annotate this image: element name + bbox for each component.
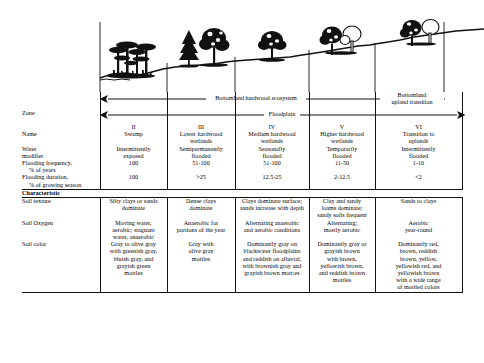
zone-numeral-v: V bbox=[309, 124, 375, 131]
water-modifier-vi: Intermittentlyflooded bbox=[375, 146, 462, 160]
soil-texture-iv: Clays dominate surface;sands increase wi… bbox=[235, 198, 309, 220]
soil-color-v: Dominantly gray orgrayish brownwith brow… bbox=[309, 241, 375, 292]
water-modifier-line2: modifier bbox=[22, 153, 43, 159]
zone-numeral-iii: III bbox=[167, 124, 235, 131]
table-row-water-modifier: Water modifier Intermittentlyexposed Sem… bbox=[22, 146, 462, 160]
soil-texture-vi: Sands to clays bbox=[375, 198, 462, 220]
row-label-soil-texture: Soil texture bbox=[22, 198, 100, 220]
name-iv: Medium hardwoodwetlands bbox=[235, 131, 309, 145]
zone-numeral-vi: VI bbox=[375, 124, 462, 131]
table-row-soil-oxygen: Soil Oxygen Moving water,aerobic; stagna… bbox=[22, 220, 462, 242]
zone-characteristics-table: Zone II III IV V VI Name Swamp Lower h bbox=[22, 92, 463, 295]
zone-spacer-v bbox=[309, 92, 375, 124]
soil-texture-iii: Dense claysdominate bbox=[167, 198, 235, 220]
flooding-duration-iii: >25 bbox=[167, 174, 235, 189]
row-label-zone-numerals-blank bbox=[22, 124, 100, 131]
soil-color-ii: Gray to olive graywith greenish gray,blu… bbox=[100, 241, 167, 292]
water-modifier-v: Temporarilyflooded bbox=[309, 146, 375, 160]
row-label-flooding-duration: Flooding duration, % of growing season bbox=[22, 174, 100, 189]
terrain-ground-line bbox=[100, 29, 484, 78]
table-row-flooding-duration: Flooding duration, % of growing season 1… bbox=[22, 174, 462, 189]
zone-spacer-ii bbox=[100, 92, 167, 124]
flooding-frequency-iv: 51-100 bbox=[235, 160, 309, 174]
table-row-soil-color: Soil color Gray to olive graywith greeni… bbox=[22, 241, 462, 292]
ground-shadow-zone-vi bbox=[406, 42, 436, 45]
soil-oxygen-iv: Alternating anaerobicand aerobic conditi… bbox=[235, 220, 309, 242]
zone-spacer-iv bbox=[235, 92, 309, 124]
row-label-zone: Zone bbox=[22, 92, 100, 124]
ground-shadow-zone-v bbox=[325, 51, 357, 54]
zone-spacer-vi bbox=[375, 92, 462, 124]
tree-zone-vi-outline bbox=[422, 20, 439, 44]
row-label-name: Name bbox=[22, 131, 100, 145]
row-label-soil-color: Soil color bbox=[22, 241, 100, 292]
soil-oxygen-ii: Moving water,aerobic; stagnantwater, ana… bbox=[100, 220, 167, 242]
flooding-frequency-vi: 1-10 bbox=[375, 160, 462, 174]
table-bottom-rule bbox=[22, 292, 462, 295]
flooding-frequency-line2: % of years bbox=[22, 167, 100, 174]
water-modifier-iii: Semipermanentlyflooded bbox=[167, 146, 235, 160]
flooding-frequency-ii: 100 bbox=[100, 160, 167, 174]
table-row-name: Name Swamp Lower hardwoodwetlands Medium… bbox=[22, 131, 462, 145]
landscape-profile-illustration bbox=[0, 0, 484, 92]
soil-color-iv: Dominantly gray onblackwater floodplains… bbox=[235, 241, 309, 292]
figure-root: Bottomland hardwood ecosystem Floodplain… bbox=[0, 0, 484, 363]
characteristic-header: Characteristic bbox=[22, 189, 462, 197]
table-row-zone-numerals: II III IV V VI bbox=[22, 124, 462, 131]
soil-texture-ii: Silty clays or sandsdominate bbox=[100, 198, 167, 220]
zone-spacer-iii bbox=[167, 92, 235, 124]
flooding-frequency-line1: Flooding frequency, bbox=[22, 160, 72, 166]
water-modifier-iv: Seasonallyflooded bbox=[235, 146, 309, 160]
flooding-duration-line1: Flooding duration, bbox=[22, 174, 68, 180]
soil-color-vi: Dominantly red,brown, reddishbrown, yell… bbox=[375, 241, 462, 292]
name-vi: Transition touplands bbox=[375, 131, 462, 145]
table-bottom-rule-row bbox=[22, 292, 462, 295]
name-iii: Lower hardwoodwetlands bbox=[167, 131, 235, 145]
water-modifier-line1: Water bbox=[22, 146, 37, 152]
flooding-frequency-v: 11-50 bbox=[309, 160, 375, 174]
tree-cluster-zone-iii bbox=[179, 28, 230, 68]
name-ii: Swamp bbox=[100, 131, 167, 145]
flooding-duration-ii: 100 bbox=[100, 174, 167, 189]
zone-numeral-iv: IV bbox=[235, 124, 309, 131]
row-label-soil-oxygen: Soil Oxygen bbox=[22, 220, 100, 242]
table-row-characteristic-header: Characteristic bbox=[22, 189, 462, 197]
swamp-water-base bbox=[100, 79, 130, 80]
table-row-flooding-frequency: Flooding frequency, % of years 100 51-10… bbox=[22, 160, 462, 174]
name-v: Higher hardwoodwetlands bbox=[309, 131, 375, 145]
flooding-frequency-iii: 51-100 bbox=[167, 160, 235, 174]
soil-oxygen-iii: Anaerobic forportions of the year bbox=[167, 220, 235, 242]
table-row-soil-texture: Soil texture Silty clays or sandsdominat… bbox=[22, 198, 462, 220]
water-modifier-ii: Intermittentlyexposed bbox=[100, 146, 167, 160]
flooding-duration-line2: % of growing season bbox=[22, 182, 100, 189]
soil-texture-v: Clay and sandyloams dominate;sandy soils… bbox=[309, 198, 375, 220]
flooding-duration-vi: <2 bbox=[375, 174, 462, 189]
row-label-flooding-frequency: Flooding frequency, % of years bbox=[22, 160, 100, 174]
zone-numeral-ii: II bbox=[100, 124, 167, 131]
table-row-zone: Zone bbox=[22, 92, 462, 124]
tree-cluster-zone-vi bbox=[400, 20, 422, 46]
soil-oxygen-vi: Aerobicyear-round bbox=[375, 220, 462, 242]
soil-color-iii: Gray witholive graymottles bbox=[167, 241, 235, 292]
row-label-water-modifier: Water modifier bbox=[22, 146, 100, 160]
soil-oxygen-v: Alternating;mostly aerobic bbox=[309, 220, 375, 242]
flooding-duration-v: 2-12.5 bbox=[309, 174, 375, 189]
flooding-duration-iv: 12.5-25 bbox=[235, 174, 309, 189]
